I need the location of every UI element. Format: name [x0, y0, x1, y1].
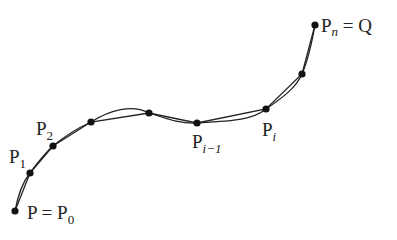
point-pi-minus-1	[193, 119, 200, 126]
label-pi-minus-1: Pi−1	[192, 131, 221, 156]
point-p2	[49, 142, 56, 149]
smooth-curve	[15, 25, 315, 211]
label-p0: P = P0	[27, 202, 74, 227]
point-pn	[311, 21, 318, 28]
label-pn: Pn = Q	[321, 15, 372, 39]
point-p1	[26, 169, 33, 176]
point-p7	[298, 70, 305, 77]
point-pi	[262, 105, 269, 112]
label-pi: Pi	[262, 119, 277, 144]
label-p1: P1	[9, 146, 26, 171]
label-p2: P2	[36, 118, 53, 143]
point-p4	[145, 109, 152, 116]
point-p3	[87, 118, 94, 125]
curve-diagram: P = P0 P1 P2 Pi−1 Pi Pn = Q	[0, 0, 397, 240]
point-p0	[11, 207, 18, 214]
